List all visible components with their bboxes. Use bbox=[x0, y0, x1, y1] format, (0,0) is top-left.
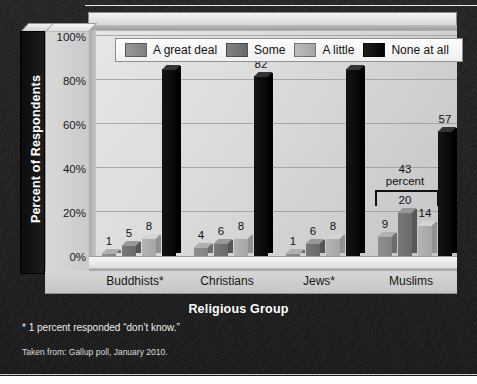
bar-value-label: 4 bbox=[198, 229, 204, 241]
x-axis-title: Religious Group bbox=[20, 302, 457, 316]
y-axis-tick-label: 40% bbox=[63, 163, 86, 175]
y-axis-labels-panel: 0%20%40%60%80%100% bbox=[45, 31, 89, 274]
bar-face bbox=[418, 225, 432, 256]
bar-face bbox=[306, 243, 320, 256]
bar: 4 bbox=[194, 247, 208, 256]
x-axis-labels-strip: Buddhists*ChristiansJews*Muslims bbox=[45, 271, 457, 294]
bar-face bbox=[162, 69, 176, 256]
bar-value-label: 57 bbox=[439, 113, 452, 125]
bar-face bbox=[122, 245, 136, 256]
y-axis-tick-label: 60% bbox=[63, 119, 86, 131]
y-axis-tick-label: 0% bbox=[69, 251, 86, 263]
bar-side bbox=[452, 128, 457, 253]
bar-face bbox=[194, 247, 208, 256]
x-axis-tick-label: Christians bbox=[177, 274, 277, 288]
bar: 6 bbox=[214, 243, 228, 256]
y-axis-tick-label: 100% bbox=[57, 31, 86, 43]
bar-value-label: 14 bbox=[419, 207, 432, 219]
bar: 5 bbox=[122, 245, 136, 256]
bar-side bbox=[268, 73, 273, 253]
bar-face bbox=[378, 236, 392, 256]
bar-face bbox=[398, 212, 412, 256]
bar-side bbox=[392, 233, 397, 253]
bar-side bbox=[248, 235, 253, 253]
bar-face bbox=[142, 238, 156, 256]
annotation-label: 43percent bbox=[361, 163, 449, 187]
annotation-bracket bbox=[375, 190, 439, 206]
bar-value-label: 1 bbox=[290, 235, 296, 247]
legend-label: None at all bbox=[391, 43, 448, 57]
bar-face bbox=[254, 76, 268, 256]
bar-side bbox=[156, 235, 161, 253]
bar-value-label: 9 bbox=[382, 218, 388, 230]
bar: 8 bbox=[326, 238, 340, 256]
legend-swatch bbox=[226, 43, 248, 57]
bar-top bbox=[286, 249, 305, 254]
bar: 82 bbox=[254, 76, 268, 256]
legend-item: A little bbox=[294, 43, 354, 57]
bar: 20 bbox=[398, 212, 412, 256]
bar-side bbox=[360, 66, 365, 253]
bar-value-label: 1 bbox=[106, 235, 112, 247]
legend-swatch bbox=[294, 43, 316, 57]
bar-value-label: 8 bbox=[146, 220, 152, 232]
legend-swatch bbox=[363, 43, 385, 57]
legend-item: Some bbox=[226, 43, 285, 57]
annotation-label-line1: 43 bbox=[361, 163, 449, 175]
bar: 85 bbox=[162, 69, 176, 256]
y-axis-tick-label: 20% bbox=[63, 207, 86, 219]
bar-side bbox=[340, 235, 345, 253]
footnote-asterisk: * 1 percent responded “don’t know.” bbox=[22, 322, 180, 333]
bar-value-label: 5 bbox=[126, 227, 132, 239]
chart-3d-shell: Percent of Respondents 0%20%40%60%80%100… bbox=[20, 12, 457, 300]
x-axis-tick-label: Buddhists* bbox=[85, 274, 185, 288]
legend-item: A great deal bbox=[125, 43, 217, 57]
y-axis-tick-label: 80% bbox=[63, 75, 86, 87]
bar: 6 bbox=[306, 243, 320, 256]
legend-item: None at all bbox=[363, 43, 448, 57]
footnote-source: Taken from: Gallup poll, January 2010. bbox=[22, 347, 168, 357]
bar: 8 bbox=[142, 238, 156, 256]
bar-face bbox=[326, 238, 340, 256]
bar-top bbox=[102, 249, 121, 254]
bar: 14 bbox=[418, 225, 432, 256]
bottom-white-strip bbox=[0, 376, 477, 384]
chart-screenshot: Percent of Respondents 0%20%40%60%80%100… bbox=[0, 0, 477, 384]
bar-value-label: 8 bbox=[238, 220, 244, 232]
bar: 57 bbox=[438, 131, 452, 256]
plot-top-slab bbox=[88, 12, 457, 26]
bars-layer: 158854688216885920145743percent bbox=[89, 30, 457, 256]
bar-side bbox=[176, 66, 181, 253]
x-axis-tick-label: Jews* bbox=[269, 274, 369, 288]
bar-side bbox=[412, 209, 417, 253]
bar-value-label: 6 bbox=[310, 225, 316, 237]
bar: 9 bbox=[378, 236, 392, 256]
legend-label: A great deal bbox=[153, 43, 217, 57]
bar-face bbox=[234, 238, 248, 256]
bar: 8 bbox=[234, 238, 248, 256]
bar-side bbox=[432, 222, 437, 253]
x-axis-tick-label: Muslims bbox=[361, 274, 461, 288]
bar-face bbox=[346, 69, 360, 256]
y-axis-title-panel: Percent of Respondents bbox=[20, 31, 45, 274]
legend-label: A little bbox=[322, 43, 354, 57]
bar: 85 bbox=[346, 69, 360, 256]
legend-label: Some bbox=[254, 43, 285, 57]
chart-legend: A great dealSomeA littleNone at all bbox=[115, 38, 463, 62]
annotation-label-line2: percent bbox=[361, 175, 449, 187]
bar-face bbox=[214, 243, 228, 256]
top-highlight-line bbox=[85, 5, 477, 6]
y-axis-title: Percent of Respondents bbox=[29, 24, 43, 274]
legend-swatch bbox=[125, 43, 147, 57]
bar-value-label: 6 bbox=[218, 225, 224, 237]
bar-value-label: 8 bbox=[330, 220, 336, 232]
bar-face bbox=[438, 131, 452, 256]
bottom-divider bbox=[0, 374, 477, 375]
